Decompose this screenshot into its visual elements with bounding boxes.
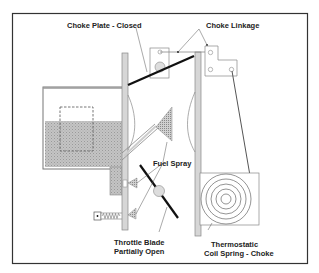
thermostatic-coil	[200, 173, 259, 225]
label-throttle-blade: Throttle Blade	[114, 238, 164, 247]
label-choke-linkage: Choke Linkage	[206, 21, 259, 30]
label-thermostatic: Thermostatic	[211, 240, 258, 249]
label-choke-plate: Choke Plate - Closed	[67, 21, 142, 30]
float-bowl	[43, 87, 125, 169]
idle-mixture-screw	[94, 212, 123, 220]
label-coil-spring: Coil Spring - Choke	[204, 249, 274, 258]
label-throttle-state: Partially Open	[114, 247, 165, 256]
fuel-passage	[110, 167, 122, 195]
label-fuel-spray: Fuel Spray	[153, 159, 192, 168]
carburetor-choke-diagram: Choke Plate - Closed Choke Linkage Fuel …	[0, 0, 319, 273]
carburetor-left-wall	[122, 53, 128, 230]
